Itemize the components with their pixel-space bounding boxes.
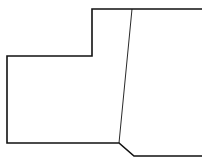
outline-shape bbox=[7, 9, 202, 156]
line-diagram bbox=[0, 0, 214, 165]
divider-line bbox=[119, 9, 132, 143]
